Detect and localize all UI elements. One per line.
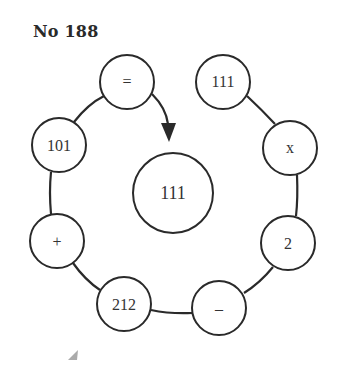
node-minus: – <box>192 281 246 335</box>
node-label: 101 <box>47 137 71 154</box>
node-times: x <box>263 121 317 175</box>
node-label: 2 <box>284 235 292 252</box>
center-label: 111 <box>160 183 186 203</box>
connector-x-2 <box>296 175 297 216</box>
node-label: – <box>214 300 224 317</box>
connector-101-eq <box>74 96 104 122</box>
connector-212-plus <box>73 263 100 290</box>
connector-111-x <box>247 96 275 124</box>
node-212: 212 <box>97 277 151 331</box>
center-node: 111 <box>133 153 213 233</box>
node-label: 111 <box>212 73 235 90</box>
connector-minus-212 <box>151 310 192 313</box>
nodes: = 111 x 2 – 212 + 101 <box>30 55 317 335</box>
node-label: 212 <box>112 296 136 313</box>
node-101: 101 <box>32 118 86 172</box>
node-label: + <box>52 233 61 250</box>
node-equals: = <box>100 55 154 109</box>
connector-plus-101 <box>50 172 51 214</box>
node-plus: + <box>30 214 84 268</box>
arrow-head-icon <box>161 123 176 142</box>
corner-mark-icon <box>68 350 78 360</box>
node-label: x <box>286 139 294 156</box>
connector-2-minus <box>244 267 273 293</box>
arrow-shaft <box>152 94 168 124</box>
node-111-top: 111 <box>196 55 250 109</box>
node-label: = <box>122 73 131 90</box>
node-two: 2 <box>261 216 315 270</box>
number-circle-diagram: = 111 x 2 – 212 + 101 <box>0 0 340 365</box>
